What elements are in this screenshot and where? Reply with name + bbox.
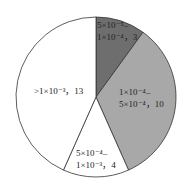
pie-chart: 5×10⁻⁵– 1×10⁻⁴，3 1×10⁻⁴– 5×10⁻⁴，10 5×10⁻… [0, 0, 184, 189]
slice-label-0-line1: 5×10⁻⁵– [97, 20, 129, 30]
slice-label-1-line1: 1×10⁻⁴– [119, 87, 151, 97]
slice-label-1-line2: 5×10⁻⁴，10 [119, 99, 164, 109]
slice-label-0-line2: 1×10⁻⁴，3 [97, 32, 138, 42]
slice-label-3: >1×10⁻³，13 [34, 86, 84, 96]
slice-label-2-line1: 5×10⁻⁴– [76, 148, 108, 158]
slice-label-2-line2: 1×10⁻³，4 [76, 160, 116, 170]
